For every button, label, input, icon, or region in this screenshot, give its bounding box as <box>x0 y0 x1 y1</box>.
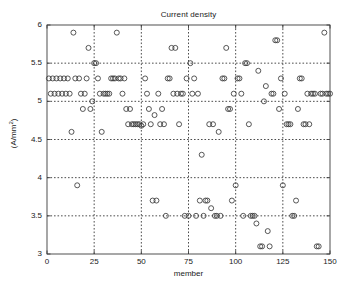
data-point-marker <box>154 198 159 203</box>
data-point-marker <box>67 91 72 96</box>
data-point-marker <box>322 30 327 35</box>
data-point-marker <box>148 122 153 127</box>
data-point-marker <box>190 91 195 96</box>
data-point-marker <box>229 198 234 203</box>
data-point-marker <box>69 129 74 134</box>
data-point-marker <box>160 106 165 111</box>
x-tick-label: 50 <box>129 257 153 266</box>
y-tick-label: 3.5 <box>18 211 42 220</box>
data-point-marker <box>122 76 127 81</box>
data-point-marker <box>216 129 221 134</box>
data-point-marker <box>86 45 91 50</box>
data-point-marker <box>192 76 197 81</box>
data-point-marker <box>80 106 85 111</box>
data-point-marker <box>265 229 270 234</box>
data-point-marker <box>84 76 89 81</box>
data-point-marker <box>75 183 80 188</box>
data-point-marker <box>246 122 251 127</box>
data-point-marker <box>277 106 282 111</box>
data-point-marker <box>256 68 261 73</box>
data-point-marker <box>177 122 182 127</box>
data-point-marker <box>163 213 168 218</box>
x-tick-label: 0 <box>35 257 59 266</box>
data-point-marker <box>95 76 100 81</box>
data-point-marker <box>128 106 133 111</box>
data-point-marker <box>71 30 76 35</box>
data-point-marker <box>294 198 299 203</box>
data-point-marker <box>261 99 266 104</box>
y-tick-label: 5 <box>18 96 42 105</box>
data-point-marker <box>114 30 119 35</box>
data-point-marker <box>282 91 287 96</box>
data-point-marker <box>224 45 229 50</box>
y-tick-label: 4 <box>18 173 42 182</box>
x-tick-label: 150 <box>318 257 342 266</box>
figure-canvas: Current density (A/mm2) member 33.544.55… <box>0 0 351 290</box>
data-point-marker <box>161 122 166 127</box>
data-point-marker <box>209 206 214 211</box>
x-tick-label: 25 <box>82 257 106 266</box>
data-point-marker <box>267 244 272 249</box>
data-point-marker <box>211 122 216 127</box>
data-point-marker <box>143 76 148 81</box>
x-tick-label: 75 <box>177 257 201 266</box>
data-point-marker <box>99 129 104 134</box>
data-point-marker <box>120 91 125 96</box>
data-point-marker <box>295 106 300 111</box>
data-point-marker <box>307 122 312 127</box>
y-tick-label: 5.5 <box>18 58 42 67</box>
y-tick-label: 4.5 <box>18 135 42 144</box>
data-point-marker <box>82 91 87 96</box>
data-point-marker <box>144 91 149 96</box>
data-point-marker <box>146 106 151 111</box>
data-point-marker <box>173 45 178 50</box>
x-tick-label: 125 <box>271 257 295 266</box>
data-point-marker <box>156 91 161 96</box>
x-axis-label: member <box>47 269 330 278</box>
scatter-plot-axes <box>0 0 351 290</box>
data-point-marker <box>239 91 244 96</box>
data-point-marker <box>65 76 70 81</box>
data-point-marker <box>88 106 93 111</box>
data-point-marker <box>197 198 202 203</box>
data-point-marker <box>152 113 157 118</box>
y-axis-label: (A/mm2) <box>8 103 19 163</box>
x-tick-label: 100 <box>224 257 248 266</box>
data-point-marker <box>188 61 193 66</box>
data-point-marker <box>231 91 236 96</box>
y-tick-label: 6 <box>18 20 42 29</box>
data-point-marker <box>199 152 204 157</box>
data-point-marker <box>254 221 259 226</box>
data-point-marker <box>263 84 268 89</box>
data-point-marker <box>195 91 200 96</box>
data-point-marker <box>77 76 82 81</box>
